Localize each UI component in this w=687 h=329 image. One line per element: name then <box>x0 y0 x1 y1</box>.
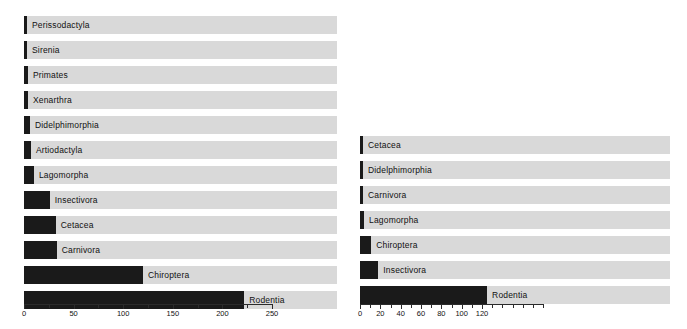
axis-tick-minor <box>391 304 392 308</box>
axis-tick-minor <box>148 304 149 308</box>
bar-category-label: Carnivora <box>368 191 406 200</box>
bar-row: Lagomorpha <box>24 166 337 184</box>
bar-row: Cetacea <box>24 216 337 234</box>
axis-tick-minor <box>492 304 493 308</box>
axis-tick-minor <box>533 304 534 308</box>
bar-value <box>360 236 371 254</box>
bar-value <box>24 291 244 309</box>
bar-category-label: Sirenia <box>32 46 60 55</box>
bar-category-label: Chiroptera <box>376 241 417 250</box>
axis-tick-minor <box>247 304 248 308</box>
bar-row: Chiroptera <box>360 236 670 254</box>
bar-value <box>24 191 50 209</box>
axis-tick-label: 150 <box>167 310 180 318</box>
bar-value <box>360 261 378 279</box>
bar-value <box>24 216 56 234</box>
bar-row: Perissodactyla <box>24 16 337 34</box>
bar-value <box>24 41 27 59</box>
bar-value <box>360 161 363 179</box>
bar-category-label: Primates <box>33 71 68 80</box>
bar-category-label: Perissodactyla <box>32 21 90 30</box>
axis-tick-label: 120 <box>476 310 489 318</box>
bar-row: Insectivora <box>360 261 670 279</box>
bar-value <box>24 66 28 84</box>
bar-value <box>24 16 27 34</box>
bar-row: Sirenia <box>24 41 337 59</box>
axis-tick-label: 20 <box>376 310 384 318</box>
axis-tick-label: 100 <box>117 310 130 318</box>
bar-row: Lagomorpha <box>360 211 670 229</box>
axis-tick-minor <box>543 304 544 308</box>
bar-category-label: Lagomorpha <box>39 171 88 180</box>
bar-value <box>24 241 57 259</box>
bar-row: Didelphimorphia <box>360 161 670 179</box>
bar-category-label: Rodentia <box>249 296 284 305</box>
axis-tick-minor <box>472 304 473 308</box>
bar-category-label: Artiodactyla <box>36 146 82 155</box>
axis-tick-minor <box>98 304 99 308</box>
bar-value <box>24 141 31 159</box>
axis-tick-minor <box>198 304 199 308</box>
bar-track <box>360 136 670 154</box>
bar-row: Carnivora <box>360 186 670 204</box>
bar-category-label: Chiroptera <box>148 271 189 280</box>
bar-category-label: Lagomorpha <box>369 216 418 225</box>
bar-value <box>360 136 363 154</box>
bar-category-label: Carnivora <box>62 246 100 255</box>
chart-panel-left: PerissodactylaSireniaPrimatesXenarthraDi… <box>0 0 345 329</box>
bar-value <box>360 186 363 204</box>
axis-tick-minor <box>452 304 453 308</box>
axis-tick-label: 0 <box>22 310 26 318</box>
bar-track <box>24 41 337 59</box>
axis-tick-label: 40 <box>396 310 404 318</box>
axis-tick-minor <box>523 304 524 308</box>
bar-value <box>360 211 364 229</box>
axis-tick-label: 50 <box>69 310 77 318</box>
bar-category-label: Insectivora <box>55 196 98 205</box>
bar-row: Cetacea <box>360 136 670 154</box>
bar-value <box>24 166 34 184</box>
axis-tick-minor <box>513 304 514 308</box>
bar-row: Rodentia <box>360 286 670 304</box>
bar-value <box>24 91 28 109</box>
axis-tick-label: 100 <box>455 310 468 318</box>
bar-chart-figure: PerissodactylaSireniaPrimatesXenarthraDi… <box>0 0 687 329</box>
bar-category-label: Didelphimorphia <box>35 121 99 130</box>
bar-row: Insectivora <box>24 191 337 209</box>
bar-value <box>24 266 143 284</box>
axis-tick-label: 250 <box>266 310 279 318</box>
bar-row: Carnivora <box>24 241 337 259</box>
axis-tick-label: 200 <box>216 310 229 318</box>
bar-category-label: Insectivora <box>383 266 426 275</box>
bar-category-label: Cetacea <box>368 141 401 150</box>
axis-tick-minor <box>411 304 412 308</box>
bar-value <box>24 116 30 134</box>
bar-track <box>24 66 337 84</box>
bar-row: Primates <box>24 66 337 84</box>
bar-row: Didelphimorphia <box>24 116 337 134</box>
axis-tick-minor <box>431 304 432 308</box>
bar-category-label: Cetacea <box>61 221 94 230</box>
axis-tick-label: 0 <box>358 310 362 318</box>
bar-category-label: Rodentia <box>492 291 527 300</box>
chart-panel-right: CetaceaDidelphimorphiaCarnivoraLagomorph… <box>345 0 687 329</box>
bar-row: Rodentia <box>24 291 337 309</box>
axis-tick-label: 60 <box>417 310 425 318</box>
bar-track <box>360 186 670 204</box>
bar-row: Chiroptera <box>24 266 337 284</box>
axis-tick-minor <box>502 304 503 308</box>
axis-tick-minor <box>49 304 50 308</box>
bar-category-label: Didelphimorphia <box>368 166 432 175</box>
bar-row: Xenarthra <box>24 91 337 109</box>
bar-category-label: Xenarthra <box>33 96 72 105</box>
axis-tick-minor <box>370 304 371 308</box>
axis-tick-label: 80 <box>437 310 445 318</box>
bar-value <box>360 286 487 304</box>
bar-row: Artiodactyla <box>24 141 337 159</box>
